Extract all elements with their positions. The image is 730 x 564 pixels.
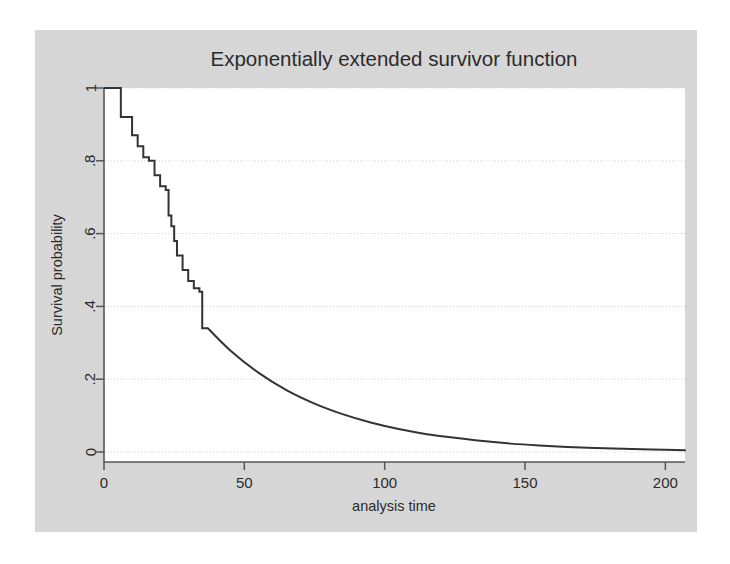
x-axis-ticks (104, 462, 665, 470)
svg-text:0: 0 (100, 474, 108, 491)
y-axis-ticks (96, 88, 104, 452)
y-axis-title: Survival probability (49, 213, 65, 335)
svg-text:150: 150 (512, 474, 537, 491)
chart-canvas: 0.2.4.6.81 050100150200 Exponentially ex… (0, 0, 730, 564)
svg-text:1: 1 (82, 84, 99, 92)
svg-text:50: 50 (236, 474, 253, 491)
svg-text:0: 0 (82, 448, 99, 456)
plot-area (104, 88, 685, 462)
x-axis-tick-labels: 050100150200 (100, 474, 678, 491)
svg-text:.6: .6 (82, 227, 99, 240)
y-axis-tick-labels: 0.2.4.6.81 (82, 84, 99, 456)
svg-text:.4: .4 (82, 300, 99, 313)
survival-chart-figure: 0.2.4.6.81 050100150200 Exponentially ex… (0, 0, 730, 564)
chart-title: Exponentially extended survivor function (211, 47, 578, 70)
svg-text:.8: .8 (82, 155, 99, 168)
svg-text:100: 100 (372, 474, 397, 491)
svg-text:.2: .2 (82, 373, 99, 386)
svg-text:200: 200 (653, 474, 678, 491)
x-axis-title: analysis time (352, 498, 436, 514)
